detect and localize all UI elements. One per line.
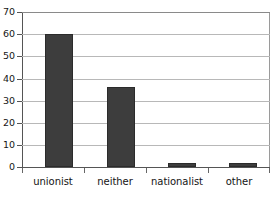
plot-area [22, 12, 270, 167]
y-tick-label-40: 40 [0, 74, 15, 84]
bar-other[interactable] [229, 163, 257, 167]
x-tick-mark-2 [146, 168, 147, 173]
x-tick-mark-3 [208, 168, 209, 173]
y-axis-tick-labels: 70 60 50 40 30 20 10 0 [0, 0, 15, 201]
y-tick-label-70: 70 [0, 7, 15, 17]
x-axis-label-other: other [208, 176, 270, 188]
y-tick-label-30: 30 [0, 96, 15, 106]
x-tick-mark-0 [22, 168, 23, 173]
x-axis-label-nationalist: nationalist [146, 176, 208, 188]
bar-neither[interactable] [107, 87, 135, 167]
bar-nationalist[interactable] [168, 163, 196, 167]
y-tick-label-50: 50 [0, 51, 15, 61]
bar-chart: 70 60 50 40 30 20 10 0 unionist n [0, 0, 279, 201]
y-tick-label-20: 20 [0, 118, 15, 128]
bar-unionist[interactable] [45, 34, 73, 167]
x-tick-mark-4 [269, 168, 270, 173]
y-tick-label-60: 60 [0, 29, 15, 39]
x-axis-label-unionist: unionist [22, 176, 84, 188]
y-tick-label-0: 0 [0, 162, 15, 172]
x-tick-mark-1 [84, 168, 85, 173]
x-axis-label-neither: neither [84, 176, 146, 188]
y-tick-label-10: 10 [0, 140, 15, 150]
gridline-70 [22, 12, 270, 13]
